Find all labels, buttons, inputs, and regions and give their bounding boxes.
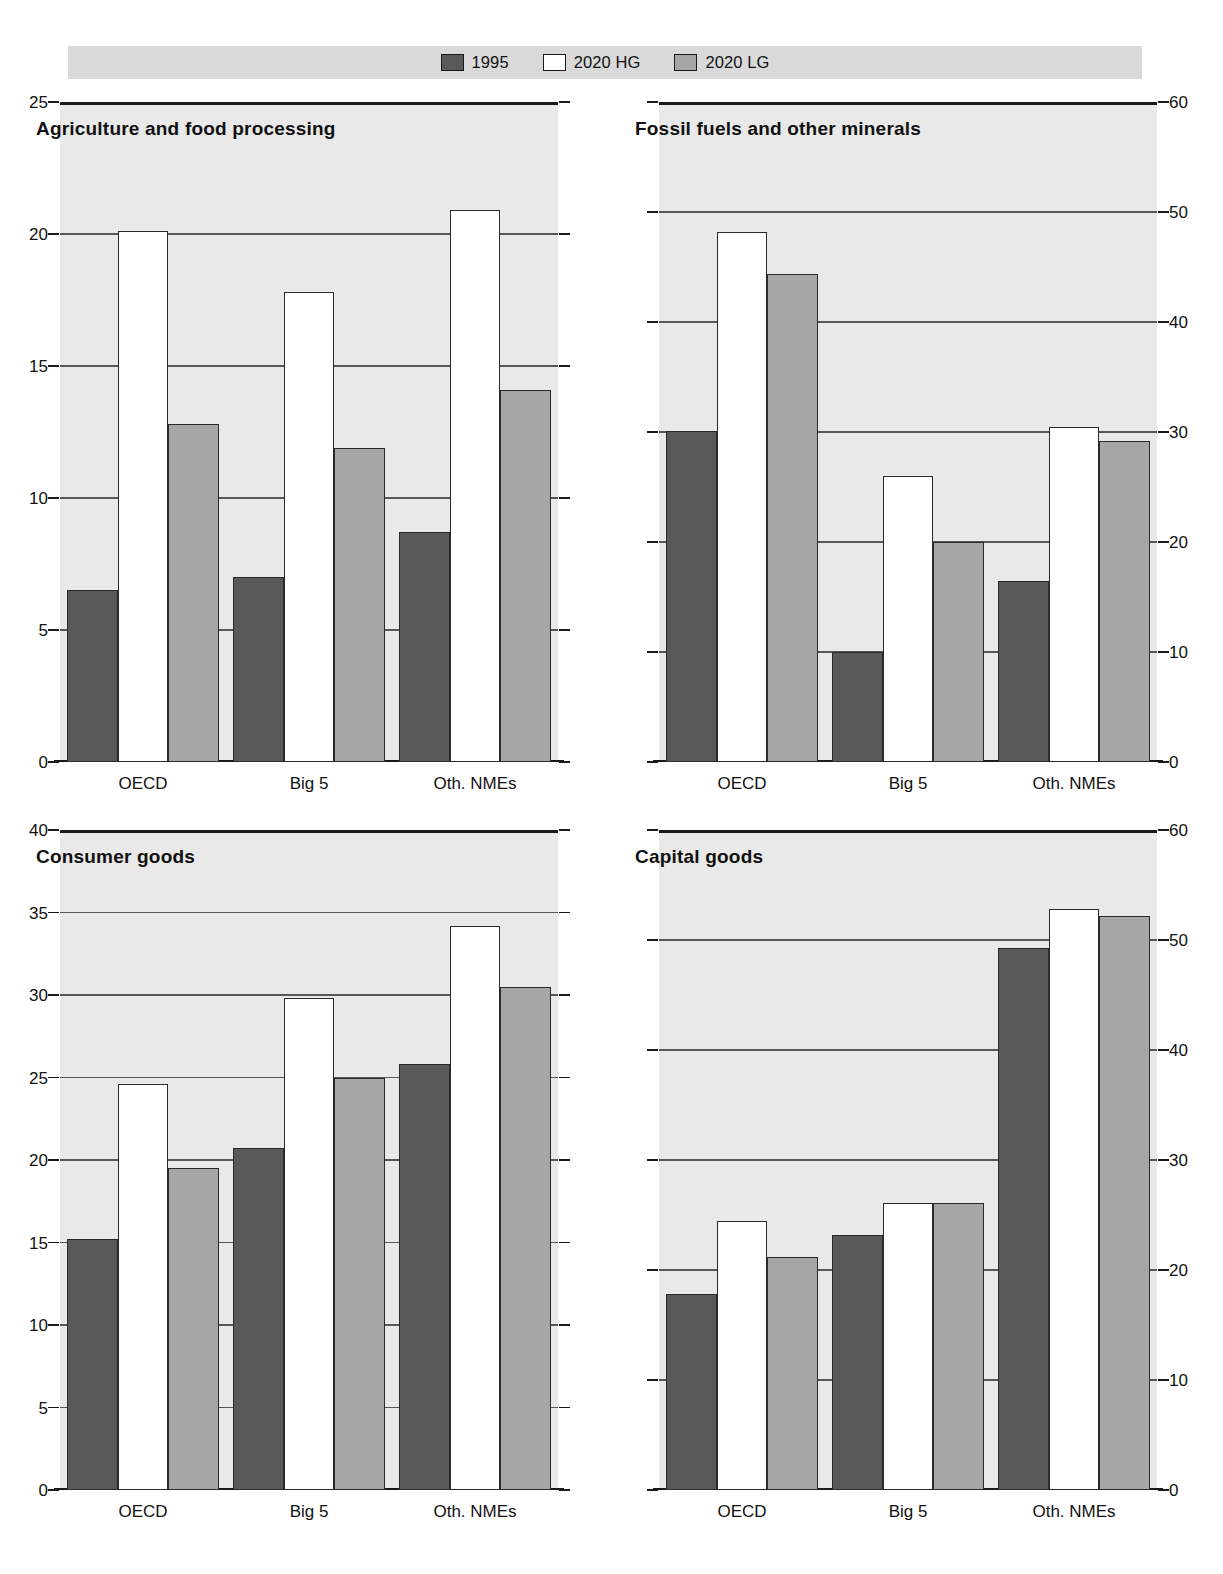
axis-tick-mark — [48, 101, 59, 103]
bar-oecd-1995 — [666, 1294, 717, 1490]
legend-entry-1995: 1995 — [441, 53, 509, 72]
bar-big-5-2020-lg — [933, 1203, 984, 1490]
bar-big-5-2020-lg — [334, 448, 385, 762]
axis-tick-label: 0 — [39, 1482, 48, 1499]
category-label: OECD — [717, 1502, 766, 1522]
bar-big-5-2020-hg — [284, 292, 335, 762]
axis-tick-label: 10 — [29, 490, 48, 507]
bars-layer — [659, 102, 1157, 762]
axis-tick-label: 15 — [29, 1235, 48, 1252]
axis-tick-mark-minor — [647, 829, 658, 831]
axis-tick-label: 25 — [29, 94, 48, 111]
axis-tick-mark — [1158, 829, 1169, 831]
bar-oth-nmes-2020-lg — [1099, 916, 1150, 1490]
chart-panel-grid: Agriculture and food processing 05101520… — [0, 90, 1223, 1560]
axis-tick-mark — [1158, 211, 1169, 213]
axis-tick-mark — [48, 912, 59, 914]
bars-layer — [659, 830, 1157, 1490]
category-label-layer: OECDBig 5Oth. NMEs — [659, 1502, 1157, 1530]
category-label-layer: OECDBig 5Oth. NMEs — [60, 774, 558, 802]
axis-tick-mark-minor — [647, 101, 658, 103]
category-label: Oth. NMEs — [433, 774, 516, 794]
axis-tick-label: 0 — [39, 754, 48, 771]
axis-tick-mark — [1158, 431, 1169, 433]
bar-oth-nmes-2020-hg — [450, 926, 501, 1490]
plot-wrap: 0102030405060 — [659, 102, 1157, 762]
axis-tick-mark — [48, 1242, 59, 1244]
axis-tick-label: 20 — [29, 1152, 48, 1169]
bar-big-5-1995 — [832, 652, 883, 762]
axis-tick-mark-minor — [559, 1242, 570, 1244]
category-label: OECD — [717, 774, 766, 794]
axis-tick-mark-minor — [647, 1049, 658, 1051]
category-label: Big 5 — [889, 1502, 928, 1522]
legend-label-1995: 1995 — [472, 53, 509, 72]
legend-entry-2020-hg: 2020 HG — [543, 53, 641, 72]
category-label: Oth. NMEs — [1032, 1502, 1115, 1522]
bar-oth-nmes-1995 — [399, 532, 450, 762]
category-label-layer: OECDBig 5Oth. NMEs — [60, 1502, 558, 1530]
chart-legend: 1995 2020 HG 2020 LG — [68, 46, 1142, 79]
axis-tick-mark — [48, 629, 59, 631]
axis-tick-mark — [48, 994, 59, 996]
chart-panel-capital-goods: Capital goods 0102030405060 OECDBig 5Oth… — [613, 818, 1203, 1518]
axis-tick-mark — [1158, 541, 1169, 543]
axis-tick-label: 10 — [1169, 1372, 1188, 1389]
legend-entry-2020-lg: 2020 LG — [674, 53, 769, 72]
chart-panel-agriculture-and-food-processing: Agriculture and food processing 05101520… — [14, 90, 604, 790]
bar-big-5-1995 — [233, 1148, 284, 1490]
axis-tick-mark-minor — [559, 365, 570, 367]
bar-big-5-2020-lg — [334, 1078, 385, 1491]
axis-tick-mark-minor — [559, 233, 570, 235]
bar-big-5-1995 — [832, 1235, 883, 1490]
axis-tick-mark-minor — [647, 541, 658, 543]
plot-wrap: 0510152025303540 — [60, 830, 558, 1490]
legend-swatch-icon-2020-lg — [674, 54, 697, 71]
bar-big-5-2020-hg — [883, 1203, 934, 1490]
category-label: OECD — [118, 774, 167, 794]
axis-tick-mark — [48, 1077, 59, 1079]
axis-tick-mark — [1158, 1269, 1169, 1271]
axis-tick-mark-minor — [647, 431, 658, 433]
bar-oth-nmes-2020-lg — [500, 390, 551, 762]
bar-oth-nmes-1995 — [998, 948, 1049, 1490]
axis-tick-mark-minor — [647, 321, 658, 323]
bar-oth-nmes-2020-hg — [450, 210, 501, 762]
axis-tick-mark — [48, 233, 59, 235]
bar-big-5-1995 — [233, 577, 284, 762]
axis-tick-mark-minor — [647, 1269, 658, 1271]
axis-tick-mark — [48, 1407, 59, 1409]
bar-oecd-2020-lg — [168, 424, 219, 762]
axis-tick-mark — [48, 829, 59, 831]
category-label: Big 5 — [889, 774, 928, 794]
axis-tick-mark — [1158, 1379, 1169, 1381]
axis-tick-label: 60 — [1169, 822, 1188, 839]
axis-tick-label: 20 — [29, 226, 48, 243]
bar-oecd-2020-hg — [717, 1221, 768, 1491]
axis-tick-label: 20 — [1169, 534, 1188, 551]
bars-layer — [60, 102, 558, 762]
axis-tick-mark — [1158, 101, 1169, 103]
axis-tick-mark-minor — [559, 912, 570, 914]
axis-tick-label: 30 — [1169, 1152, 1188, 1169]
bar-oth-nmes-2020-hg — [1049, 427, 1100, 763]
bar-oth-nmes-2020-hg — [1049, 909, 1100, 1490]
axis-tick-mark — [48, 1324, 59, 1326]
axis-tick-mark — [48, 497, 59, 499]
bar-oth-nmes-2020-lg — [1099, 441, 1150, 762]
axis-tick-label: 0 — [1169, 754, 1178, 771]
axis-tick-mark-minor — [559, 1077, 570, 1079]
bar-oecd-2020-hg — [717, 232, 768, 762]
bar-big-5-2020-hg — [883, 476, 934, 762]
bar-big-5-2020-hg — [284, 998, 335, 1490]
axis-tick-mark — [48, 1159, 59, 1161]
axis-tick-label: 50 — [1169, 204, 1188, 221]
panel-title: Agriculture and food processing — [36, 118, 336, 140]
axis-tick-mark — [1158, 1159, 1169, 1161]
axis-tick-mark — [1158, 321, 1169, 323]
axis-tick-mark-minor — [647, 939, 658, 941]
bar-oth-nmes-1995 — [998, 581, 1049, 763]
axis-tick-mark-minor — [559, 629, 570, 631]
axis-tick-label: 40 — [1169, 1042, 1188, 1059]
plot-wrap: 0510152025 — [60, 102, 558, 762]
